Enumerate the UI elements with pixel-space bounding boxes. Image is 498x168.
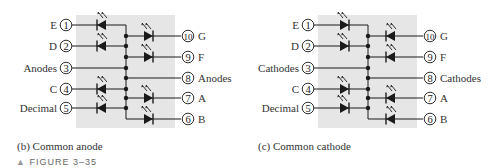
pin-number: 8 [427,73,432,84]
pin-label-f: F [198,51,204,63]
pin-number: 10 [184,32,194,42]
pin-label-e: E [292,19,299,31]
pin-label-b: B [440,113,447,125]
pin-number: 3 [63,63,68,74]
pin-label-g: G [198,30,206,42]
pin-label-common: Cathodes [258,62,299,74]
figure-number: FIGURE 3–35 [29,157,97,167]
pin-number: 10 [426,32,436,42]
common-cathode-diagram: 1 2 3 4 5 10 9 8 7 6 E D Cathodes C Deci… [258,12,481,128]
caption-common-cathode: (c) Common cathode [258,140,351,152]
pin-number: 1 [63,20,68,31]
pin-label-e: E [50,19,57,31]
common-anode-diagram: 1 2 3 4 5 10 9 8 7 6 E D Anodes C Decima… [20,12,232,128]
pin-label-decimal: Decimal [262,102,299,114]
pin-label-common: Anodes [198,72,232,84]
pin-label-d: D [49,40,57,52]
triangle-marker-icon: ▲ [16,157,26,167]
pin-label-c: C [50,83,57,95]
pin-label-c: C [292,83,299,95]
pin-label-b: B [198,113,205,125]
pin-label-d: D [291,40,299,52]
pin-label-a: A [440,92,448,104]
pin-number: 6 [185,114,190,125]
pin-number: 5 [305,103,310,114]
pin-number: 9 [427,52,432,63]
pin-number: 4 [63,84,69,95]
pin-number: 4 [305,84,311,95]
pin-number: 9 [185,52,190,63]
pin-label-f: F [440,51,446,63]
pin-number: 2 [305,41,310,52]
pin-label-common: Cathodes [440,72,481,84]
pin-label-g: G [440,30,448,42]
pin-number: 7 [427,93,432,104]
caption-common-anode: (b) Common anode [17,140,103,152]
pin-number: 2 [63,41,68,52]
pin-number: 7 [185,93,190,104]
pin-number: 5 [63,103,68,114]
pin-number: 3 [305,63,310,74]
pin-number: 1 [305,20,310,31]
figure-label: ▲ FIGURE 3–35 [16,157,97,167]
pin-label-a: A [198,92,206,104]
pin-number: 8 [185,73,190,84]
pin-label-decimal: Decimal [20,102,57,114]
pin-number: 6 [427,114,432,125]
pin-label-common: Anodes [23,62,57,74]
